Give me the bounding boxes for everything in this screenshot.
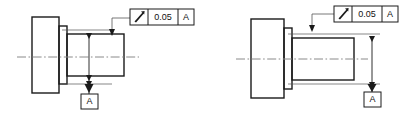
right-leader-line <box>309 14 334 32</box>
right-runout-extent-dimension <box>369 36 375 88</box>
right-feature-control-frame[interactable]: 0.05 A <box>334 6 398 22</box>
right-datum-reference: A <box>387 9 393 19</box>
right-tolerance-value: 0.05 <box>358 9 376 19</box>
drawing-sheet: 0.05 A A <box>0 0 409 118</box>
right-view: 0.05 A A <box>0 0 409 118</box>
right-datum-feature-a[interactable]: A <box>364 84 381 107</box>
right-datum-label: A <box>369 94 375 104</box>
